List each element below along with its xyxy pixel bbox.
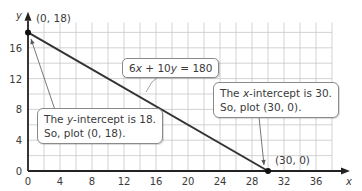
- svg-text:20: 20: [182, 176, 195, 187]
- equation-label: 6x + 10y = 180: [122, 58, 219, 78]
- svg-text:0: 0: [16, 166, 22, 177]
- callout-line: So, plot (30, 0).: [220, 100, 332, 114]
- point-label-x-intercept: (30, 0): [275, 154, 310, 166]
- svg-text:12: 12: [118, 176, 131, 187]
- equation-text: 6: [129, 62, 136, 74]
- svg-text:4: 4: [57, 176, 63, 187]
- callout-line: The x-intercept is 30.: [220, 86, 332, 100]
- equation-text: + 10: [142, 62, 171, 74]
- svg-text:28: 28: [246, 176, 259, 187]
- svg-text:36: 36: [310, 176, 323, 187]
- svg-text:y: y: [15, 10, 23, 21]
- x-intercept-callout: The x-intercept is 30. So, plot (30, 0).: [213, 82, 339, 118]
- svg-text:0: 0: [25, 176, 31, 187]
- svg-text:24: 24: [214, 176, 227, 187]
- callout-line: So, plot (0, 18).: [44, 126, 156, 140]
- svg-text:8: 8: [16, 104, 22, 115]
- svg-text:16: 16: [150, 176, 163, 187]
- svg-text:x: x: [345, 176, 352, 187]
- svg-text:8: 8: [89, 176, 95, 187]
- y-intercept-callout: The y-intercept is 18. So, plot (0, 18).: [37, 108, 163, 144]
- callout-line: The y-intercept is 18.: [44, 112, 156, 126]
- svg-text:32: 32: [278, 176, 291, 187]
- equation-text: = 180: [177, 62, 213, 74]
- point-label-y-intercept: (0, 18): [36, 12, 71, 24]
- svg-text:16: 16: [9, 43, 22, 54]
- svg-text:4: 4: [16, 135, 22, 146]
- svg-text:12: 12: [9, 74, 22, 85]
